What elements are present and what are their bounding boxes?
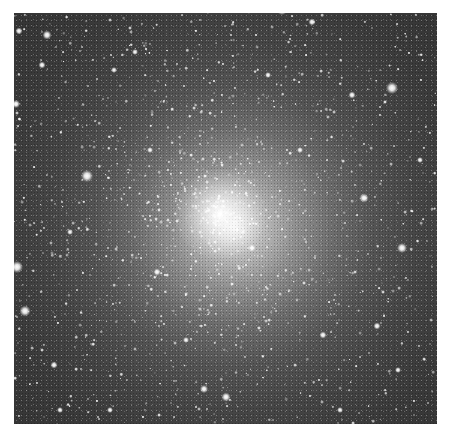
- star: [359, 220, 361, 222]
- star: [158, 147, 161, 150]
- star: [66, 239, 69, 242]
- star: [115, 320, 119, 324]
- star: [171, 228, 175, 232]
- star: [93, 254, 96, 257]
- star: [405, 322, 408, 325]
- star: [387, 300, 390, 303]
- star: [330, 135, 334, 139]
- star: [350, 199, 354, 203]
- star: [61, 205, 64, 208]
- star: [194, 30, 196, 32]
- star: [64, 258, 66, 260]
- star: [34, 120, 36, 122]
- star: [269, 284, 272, 287]
- star: [62, 50, 65, 53]
- star: [23, 28, 26, 31]
- star: [67, 242, 69, 244]
- star: [246, 157, 250, 161]
- star: [160, 315, 163, 318]
- star: [107, 371, 109, 373]
- star: [319, 179, 322, 182]
- star: [416, 239, 420, 243]
- star: [355, 214, 358, 217]
- star: [358, 412, 361, 415]
- star: [199, 110, 203, 114]
- star: [119, 188, 121, 190]
- star: [200, 119, 203, 122]
- star: [128, 186, 132, 190]
- star: [273, 58, 275, 60]
- star: [181, 148, 183, 150]
- star: [367, 405, 370, 408]
- star: [294, 102, 297, 105]
- star: [419, 222, 423, 226]
- star: [348, 389, 351, 392]
- star: [85, 20, 88, 23]
- star: [71, 48, 74, 51]
- star: [108, 374, 112, 378]
- star: [256, 143, 259, 146]
- star: [18, 375, 20, 377]
- star: [90, 343, 92, 345]
- star: [220, 110, 223, 113]
- star: [187, 127, 189, 129]
- star: [393, 276, 395, 278]
- star: [83, 149, 85, 151]
- star: [31, 398, 34, 401]
- bright-star: [43, 31, 52, 40]
- bright-star: [107, 407, 113, 413]
- star: [222, 386, 225, 389]
- star: [105, 294, 108, 297]
- star: [119, 84, 123, 88]
- star: [258, 161, 261, 164]
- star: [228, 155, 232, 159]
- star: [265, 286, 269, 290]
- star: [43, 416, 45, 418]
- star: [245, 263, 248, 266]
- star: [233, 115, 236, 118]
- star: [137, 253, 140, 256]
- star: [320, 383, 323, 386]
- star: [383, 100, 387, 104]
- star: [361, 52, 363, 54]
- star: [373, 292, 375, 294]
- star: [14, 221, 15, 223]
- star: [375, 284, 377, 286]
- star: [110, 164, 113, 167]
- star: [122, 16, 126, 20]
- star: [346, 275, 348, 277]
- star: [26, 256, 29, 259]
- star: [29, 382, 32, 385]
- star: [210, 127, 214, 131]
- star: [284, 397, 288, 401]
- star: [64, 80, 68, 84]
- star: [270, 147, 273, 150]
- star: [378, 287, 381, 290]
- star: [324, 170, 327, 173]
- star: [195, 348, 197, 350]
- star: [172, 74, 176, 78]
- star: [384, 391, 388, 395]
- star: [55, 99, 57, 101]
- star: [377, 267, 381, 271]
- star: [339, 38, 342, 41]
- star: [21, 21, 23, 23]
- star: [354, 151, 356, 153]
- star: [115, 148, 118, 151]
- star: [295, 23, 299, 27]
- star: [117, 28, 119, 30]
- star: [194, 149, 197, 152]
- star: [87, 411, 90, 414]
- star: [287, 322, 289, 324]
- star: [232, 62, 235, 65]
- star: [40, 359, 42, 361]
- star: [253, 255, 255, 257]
- star: [107, 147, 111, 151]
- star: [303, 237, 307, 241]
- star: [93, 314, 95, 316]
- star: [115, 101, 117, 103]
- star: [107, 176, 111, 180]
- star: [99, 258, 101, 260]
- star: [295, 298, 299, 302]
- star: [128, 44, 131, 47]
